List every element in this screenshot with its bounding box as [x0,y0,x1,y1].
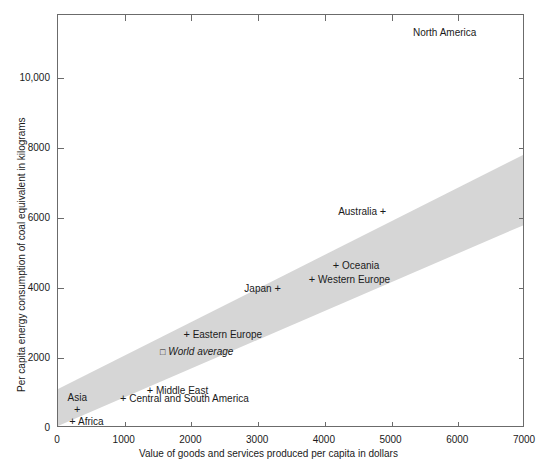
plus-marker-icon: + [120,391,126,403]
plus-marker-icon: + [69,415,75,427]
data-point-middle-east: + Middle East [147,384,208,395]
data-point-world-average: □ World average [160,347,233,357]
x-tick-top [392,15,393,21]
data-point-label: Asia [68,393,87,403]
plus-marker-icon: + [309,272,315,284]
data-point-label: Oceania [342,259,379,270]
plot-area: + AfricaAsia++ Central and South America… [57,14,524,427]
data-point-western-europe: + Western Europe [309,273,390,284]
plus-marker-icon: + [183,327,189,339]
correlation-band [58,15,523,426]
y-tick-left [58,148,64,149]
y-tick-right [519,288,524,289]
data-point-oceania: + Oceania [333,259,379,270]
data-point-label: World average [168,346,233,357]
x-axis-title: Value of goods and services produced per… [0,448,537,459]
plus-marker-icon: + [147,383,153,395]
y-tick-label: 2000 [8,352,50,363]
data-point-asia: Asia+ [68,393,87,415]
x-tick-top [458,15,459,21]
data-point-label: North America [413,27,476,38]
y-tick-right [519,358,524,359]
y-tick-label: 6000 [8,212,50,223]
square-marker-icon: □ [160,347,165,357]
x-tick-top [125,15,126,21]
x-tick-label: 3000 [246,434,268,445]
y-tick-right [519,78,524,79]
y-axis-title: Per capita energy consumption of coal eq… [16,117,27,392]
x-tick-bottom [191,422,192,427]
plus-marker-icon: + [68,404,87,415]
y-tick-label: 4000 [8,282,50,293]
scatter-chart: + AfricaAsia++ Central and South America… [0,0,537,468]
y-tick-label: 8000 [8,142,50,153]
data-point-label: Middle East [156,384,208,395]
data-point-japan: Japan + [244,283,280,294]
plus-marker-icon: + [333,258,339,270]
plus-marker-icon: + [380,205,386,217]
data-point-north-america: North America [413,28,476,38]
x-tick-top [191,15,192,21]
data-point-label: Africa [78,416,104,427]
x-tick-top [258,15,259,21]
y-tick-left [58,218,64,219]
x-tick-bottom [258,422,259,427]
x-tick-bottom [458,422,459,427]
plus-marker-icon: + [274,282,280,294]
x-tick-bottom [325,422,326,427]
x-tick-label: 5000 [379,434,401,445]
data-point-label: Western Europe [318,273,390,284]
y-tick-label: 10,000 [8,72,50,83]
x-tick-label: 6000 [446,434,468,445]
y-tick-right [519,148,524,149]
y-tick-label: 0 [8,422,50,433]
x-tick-label: 1000 [113,434,135,445]
y-tick-left [58,78,64,79]
data-point-label: Australia [338,206,377,217]
y-tick-left [58,288,64,289]
data-point-label: Japan [244,283,271,294]
x-tick-label: 4000 [313,434,335,445]
data-point-africa: + Africa [69,416,103,427]
data-point-australia: Australia + [338,206,386,217]
x-tick-label: 0 [54,434,60,445]
y-tick-left [58,358,64,359]
x-tick-label: 2000 [179,434,201,445]
x-tick-label: 7000 [513,434,535,445]
x-tick-bottom [392,422,393,427]
x-tick-top [325,15,326,21]
y-tick-right [519,218,524,219]
x-tick-bottom [125,422,126,427]
data-point-label: Eastern Europe [193,328,263,339]
data-point-eastern-europe: + Eastern Europe [183,328,262,339]
